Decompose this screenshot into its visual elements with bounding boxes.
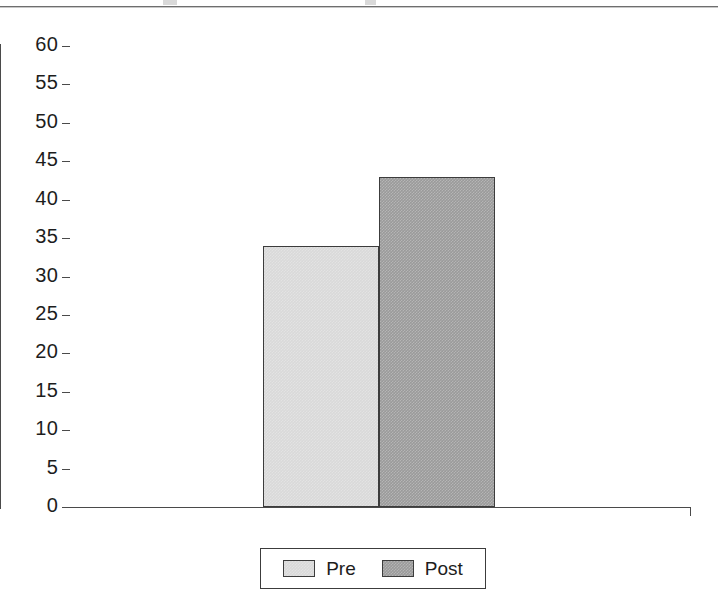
legend-swatch-pre: [283, 560, 315, 577]
y-axis-tick-label: 55: [14, 71, 58, 94]
y-axis-tick: [62, 469, 70, 470]
y-axis-tick: [62, 84, 70, 85]
x-axis-line: [69, 507, 691, 508]
chart-legend: PrePost: [260, 548, 486, 589]
y-axis-tick: [62, 200, 70, 201]
y-axis-line: [0, 44, 1, 509]
legend-label: Pre: [326, 558, 356, 580]
bar-post: [379, 177, 495, 507]
figure-page: 605550454035302520151050 PrePost: [0, 0, 718, 607]
y-axis-tick-label: 25: [14, 302, 58, 325]
y-axis-tick-label: 15: [14, 379, 58, 402]
y-axis-tick-label: 60: [14, 33, 58, 56]
cropped-title-remnant: [365, 0, 376, 5]
bar-fill-texture: [380, 178, 494, 506]
y-axis-tick: [62, 392, 70, 393]
x-axis-end-tick: [690, 507, 691, 516]
y-axis-tick-label: 30: [14, 264, 58, 287]
bar-fill-texture: [264, 247, 378, 506]
cropped-title-remnant: [163, 0, 177, 5]
y-axis-tick: [62, 507, 70, 508]
legend-label: Post: [425, 558, 463, 580]
y-axis-tick: [62, 161, 70, 162]
y-axis-tick: [62, 46, 70, 47]
y-axis-tick: [62, 430, 70, 431]
y-axis-tick-label: 5: [14, 456, 58, 479]
legend-swatch-post: [382, 560, 414, 577]
y-axis-tick-label: 0: [14, 494, 58, 517]
y-axis-tick-label: 50: [14, 110, 58, 133]
y-axis-tick: [62, 238, 70, 239]
y-axis-tick-label: 35: [14, 225, 58, 248]
legend-entry-post: Post: [382, 558, 463, 580]
legend-swatch-texture: [383, 561, 413, 576]
y-axis-tick: [62, 123, 70, 124]
bar-pre: [263, 246, 379, 507]
y-axis-tick-label: 20: [14, 340, 58, 363]
legend-entry-pre: Pre: [283, 558, 356, 580]
y-axis-tick-label: 40: [14, 187, 58, 210]
y-axis-tick-label: 10: [14, 417, 58, 440]
page-crop-rule-shadow: [0, 7, 718, 8]
y-axis-tick: [62, 315, 70, 316]
y-axis-tick: [62, 277, 70, 278]
y-axis-tick-label: 45: [14, 148, 58, 171]
legend-swatch-texture: [284, 561, 314, 576]
y-axis-tick: [62, 353, 70, 354]
